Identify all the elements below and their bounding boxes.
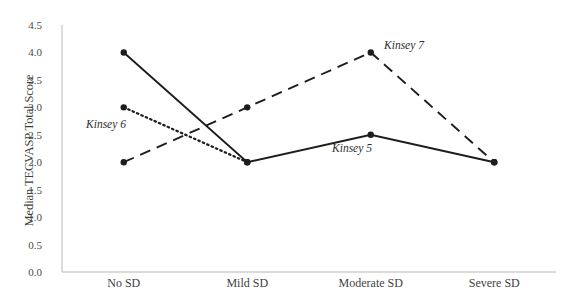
plot-area — [0, 0, 563, 301]
data-point-marker — [368, 49, 374, 55]
data-point-marker — [368, 132, 374, 138]
x-axis-tick-label: Moderate SD — [339, 276, 403, 291]
data-point-marker — [121, 159, 127, 165]
data-point-marker — [491, 159, 497, 165]
data-point-marker — [121, 49, 127, 55]
series-line — [124, 52, 495, 162]
series-label: Kinsey 6 — [86, 118, 126, 130]
data-point-marker — [121, 104, 127, 110]
chart-container: Median TECVASP Total Score 0.00.51.01.52… — [0, 0, 563, 301]
data-point-marker — [244, 104, 250, 110]
series-label: Kinsey 5 — [332, 142, 372, 154]
data-point-marker — [244, 159, 250, 165]
x-axis-tick-label: Mild SD — [226, 276, 268, 291]
x-axis-tick-label: No SD — [107, 276, 140, 291]
series-line — [124, 52, 495, 162]
series-label: Kinsey 7 — [384, 39, 424, 51]
x-axis-tick-label: Severe SD — [469, 276, 520, 291]
